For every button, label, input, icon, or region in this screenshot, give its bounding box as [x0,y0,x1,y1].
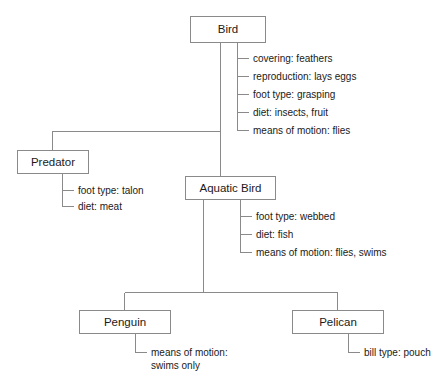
attribute-label: bill type: pouch [364,347,431,358]
attribute-labels-penguin: means of motion: swims only [151,347,228,371]
attribute-labels-predator: foot type: talon diet: meat [78,185,144,212]
attribute-labels-bird: covering: feathers reproduction: lays eg… [253,53,356,136]
node-label-pelican: Pelican [319,316,357,328]
node-penguin[interactable]: Penguin [80,311,171,334]
attribute-label: foot type: grasping [253,89,335,100]
node-label-aquatic-bird: Aquatic Bird [199,182,261,194]
attribute-label: means of motion: [151,347,228,358]
node-label-predator: Predator [31,156,75,168]
node-label-bird: Bird [218,23,238,35]
attribute-labels-pelican: bill type: pouch [364,347,431,358]
node-label-penguin: Penguin [104,316,146,328]
attribute-label: means of motion: flies [253,125,350,136]
node-predator[interactable]: Predator [18,151,89,174]
edge-bird-to-predator [53,132,221,151]
bracket-spine-penguin [136,333,147,353]
attribute-label: means of motion: flies, swims [256,247,387,258]
node-aquatic-bird[interactable]: Aquatic Bird [186,177,276,200]
attribute-label: diet: insects, fruit [253,107,328,118]
node-bird[interactable]: Bird [191,17,266,43]
attribute-label: diet: meat [78,201,122,212]
bird-hierarchy-diagram: Bird Predator Aquatic Bird Penguin Pelic… [0,0,445,388]
attribute-label: reproduction: lays eggs [253,71,356,82]
diagram-canvas-container: Bird Predator Aquatic Bird Penguin Pelic… [0,0,445,388]
bracket-penguin-attributes [136,333,147,353]
attribute-label: foot type: webbed [256,211,335,222]
bracket-predator-attributes [63,173,74,207]
bracket-pelican-attributes [349,333,360,353]
node-pelican[interactable]: Pelican [293,311,384,334]
attribute-label: swims only [151,360,200,371]
attribute-label: diet: fish [256,229,293,240]
bracket-spine-pelican [349,333,360,353]
attribute-label: covering: feathers [253,53,333,64]
bracket-bird-attributes [238,42,249,131]
bracket-aquatic-bird-attributes [241,199,252,253]
attribute-label: foot type: talon [78,185,144,196]
attribute-labels-aquatic-bird: foot type: webbed diet: fish means of mo… [256,211,387,258]
